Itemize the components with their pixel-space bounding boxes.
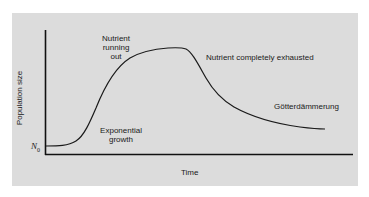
figure: Population size N0 Nutrient running out … [0, 0, 369, 197]
n0-tick-label: N0 [31, 141, 40, 153]
annotation-gotterdammerung: Götterdämmerung [274, 102, 339, 111]
annotation-line: Exponential [94, 126, 148, 135]
y-axis-label: Population size [15, 71, 24, 125]
annotation-exponential-growth: Exponential growth [94, 126, 148, 144]
n0-subscript: 0 [37, 147, 40, 153]
x-axis-label: Time [181, 168, 198, 177]
annotation-line: out [95, 52, 137, 61]
annotation-nutrient-running-out: Nutrient running out [95, 34, 137, 61]
annotation-line: growth [94, 135, 148, 144]
annotation-line: running [95, 43, 137, 52]
annotation-nutrient-exhausted: Nutrient completely exhausted [206, 53, 314, 62]
annotation-line: Nutrient [95, 34, 137, 43]
population-curve [46, 48, 325, 146]
